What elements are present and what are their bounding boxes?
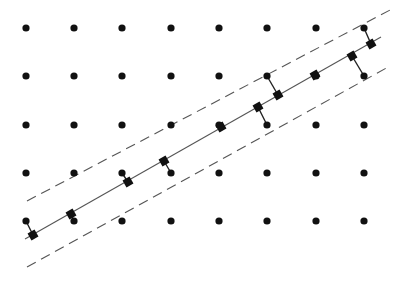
lattice-dot [312, 121, 319, 128]
projected-point-square [347, 51, 358, 62]
lattice-projection-diagram [0, 0, 410, 284]
lattice-dot [70, 169, 77, 176]
lattice-dot [312, 217, 319, 224]
lattice-dot [360, 24, 367, 31]
lattice-dot [263, 169, 270, 176]
lattice-dot [215, 24, 222, 31]
lattice-points [22, 24, 367, 224]
lattice-dot [167, 169, 174, 176]
lattice-dot [215, 169, 222, 176]
lattice-dot [263, 121, 270, 128]
lattice-dot [70, 121, 77, 128]
lattice-dot [360, 72, 367, 79]
lattice-dot [118, 24, 125, 31]
center-line [25, 37, 381, 239]
lattice-dot [118, 217, 125, 224]
band-boundaries [27, 9, 392, 267]
lattice-dot [263, 72, 270, 79]
projection-line [25, 37, 381, 239]
projected-point-square [310, 70, 321, 81]
lattice-dot [118, 121, 125, 128]
projected-point-square [253, 102, 264, 113]
upper-dashed-line [27, 9, 392, 201]
projected-point-square [28, 230, 39, 241]
lattice-dot [167, 24, 174, 31]
lattice-dot [167, 121, 174, 128]
lattice-dot [167, 72, 174, 79]
lattice-dot [263, 217, 270, 224]
lattice-dot [167, 217, 174, 224]
lattice-dot [22, 72, 29, 79]
projected-point-square [273, 90, 284, 101]
lattice-dot [360, 169, 367, 176]
lattice-dot [22, 24, 29, 31]
lattice-dot [118, 169, 125, 176]
lattice-dot [22, 169, 29, 176]
lattice-dot [70, 24, 77, 31]
projected-point-square [159, 156, 170, 167]
projection-connectors [26, 28, 371, 235]
lattice-dot [360, 217, 367, 224]
lattice-dot [118, 72, 125, 79]
lattice-dot [215, 72, 222, 79]
lattice-dot [22, 121, 29, 128]
lattice-dot [263, 24, 270, 31]
lattice-dot [360, 121, 367, 128]
lower-dashed-line [27, 66, 390, 267]
lattice-dot [215, 217, 222, 224]
lattice-dot [70, 217, 77, 224]
lattice-dot [70, 72, 77, 79]
lattice-dot [312, 169, 319, 176]
lattice-dot [312, 24, 319, 31]
lattice-dot [22, 217, 29, 224]
